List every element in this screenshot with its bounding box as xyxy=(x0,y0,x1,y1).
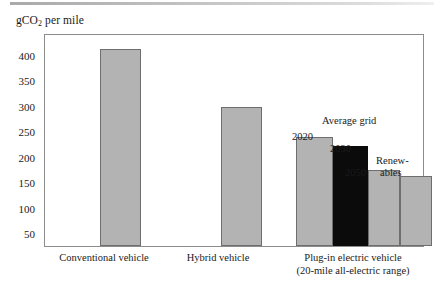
x-axis-label-phev-line1: Plug-in electric vehicle xyxy=(278,252,428,265)
y-axis-title: gCO2 per mile xyxy=(16,14,84,26)
annotation-2050: 2050 xyxy=(345,167,366,179)
x-axis-label-phev-line2: (20-mile all-electric range) xyxy=(278,265,428,278)
annotation-2020: 2020 xyxy=(292,131,313,143)
y-tick-label-200: 200 xyxy=(19,152,36,164)
y-tick-label-250: 250 xyxy=(19,126,36,138)
x-axis-label-phev: Plug-in electric vehicle (20-mile all-el… xyxy=(278,252,428,277)
x-axis-label-conventional: Conventional vehicle xyxy=(49,252,159,265)
bar-phev-2050[interactable] xyxy=(368,170,400,246)
y-tick-label-300: 300 xyxy=(19,101,36,113)
bar-conventional-vehicle[interactable] xyxy=(100,49,141,246)
x-axis-label-hybrid-text: Hybrid vehicle xyxy=(187,252,250,263)
bar-phev-2030[interactable] xyxy=(333,146,368,246)
y-tick-label-400: 400 xyxy=(19,50,36,62)
y-tick-label-350: 350 xyxy=(19,75,36,87)
annotation-average-grid: Average grid xyxy=(322,115,376,127)
annotation-renewables-line1: Renew- xyxy=(376,155,409,167)
y-axis-title-subscript: 2 xyxy=(38,19,42,28)
plot-area xyxy=(44,34,424,247)
y-tick-label-150: 150 xyxy=(19,177,36,189)
y-axis-title-suffix: per mile xyxy=(42,14,84,26)
bar-phev-renewables[interactable] xyxy=(400,176,432,246)
bar-phev-2020[interactable] xyxy=(296,137,333,246)
y-tick-label-50: 50 xyxy=(24,228,35,240)
y-axis-title-prefix: gCO xyxy=(16,14,38,26)
bar-hybrid-vehicle[interactable] xyxy=(221,107,262,246)
chart-figure: gCO2 per mile 400 350 300 250 200 150 10… xyxy=(0,0,446,298)
annotation-renewables-line2: ables xyxy=(380,167,402,179)
x-axis-label-hybrid: Hybrid vehicle xyxy=(172,252,264,265)
annotation-2030: 2030 xyxy=(330,143,351,155)
y-tick-label-100: 100 xyxy=(19,203,36,215)
